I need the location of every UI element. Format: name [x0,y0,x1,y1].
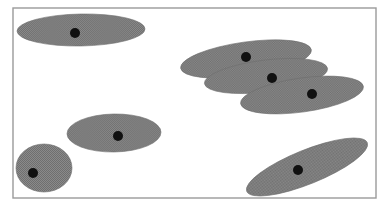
cluster-point-4 [307,89,317,99]
cluster-ellipse-6 [16,144,72,192]
cluster-point-2 [241,52,251,62]
cluster-point-1 [70,28,80,38]
figure-canvas [0,0,388,210]
cluster-point-5 [113,131,123,141]
cluster-point-3 [267,73,277,83]
cluster-point-6 [28,168,38,178]
cluster-point-7 [293,165,303,175]
ellipse-cluster-plot [0,0,388,210]
